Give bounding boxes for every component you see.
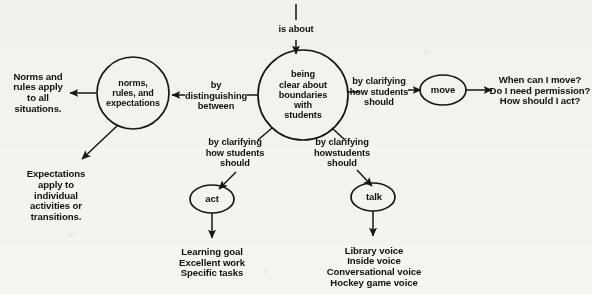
edge-label-distinguishing: by distinguishing between [182, 76, 250, 116]
node-norms-label: norms, rules, and expectations [100, 72, 166, 114]
leaf-norms-apply: Norms and rules apply to all situations. [4, 62, 72, 124]
leaf-talk-items: Library voice Inside voice Conversationa… [313, 238, 435, 294]
concept-map-canvas: is about being clear about boundaries wi… [0, 0, 592, 294]
node-act-label: act [194, 192, 230, 206]
edge-label-clarifying-right: by clarifying how students should [346, 72, 412, 112]
node-move-label: move [423, 83, 463, 97]
edge-label-is-about: is about [265, 22, 327, 36]
node-central-label: being clear about boundaries with studen… [263, 60, 343, 130]
edge-label-clarifying-left-bottom: by clarifying how students should [200, 133, 270, 173]
edge-label-clarifying-right-bottom: by clarifying howstudents should [307, 133, 377, 173]
leaf-act-items: Learning goal Excellent work Specific ta… [162, 240, 262, 286]
leaf-expectations-apply: Expectations apply to individual activit… [18, 160, 94, 232]
leaf-move-questions: When can I move? Do I need permission? H… [489, 68, 591, 114]
node-talk-label: talk [356, 190, 392, 204]
diagram-connectors [0, 0, 592, 294]
edge-norms-to-expectations [82, 125, 118, 159]
